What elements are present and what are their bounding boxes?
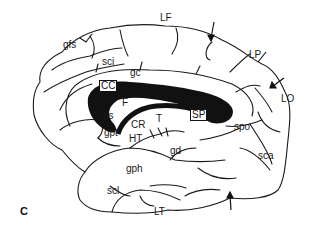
label-fornix: F: [122, 98, 128, 108]
label-scl: scl: [107, 186, 119, 196]
panel-letter: C: [20, 205, 28, 217]
label-gc: gc: [130, 68, 141, 78]
label-ht: HT: [129, 134, 142, 144]
label-gfs: gfs: [63, 40, 76, 50]
label-as: as: [103, 111, 114, 121]
label-gpt: gpt: [104, 128, 118, 138]
label-gph: gph: [126, 164, 143, 174]
label-thalamus: T: [156, 114, 162, 124]
label-lobus-frontalis: LF: [160, 13, 172, 23]
label-splenium: SP: [190, 109, 207, 121]
label-lobus-temporalis: LT: [154, 207, 165, 217]
label-lobus-occipitalis: LO: [281, 94, 294, 104]
label-cr: CR: [131, 120, 145, 130]
label-sci: sci: [102, 57, 114, 67]
label-spo: spo: [234, 122, 250, 132]
label-corpus-callosum: CC: [99, 80, 117, 92]
label-lobus-parietalis: LP: [249, 50, 261, 60]
label-sca: sca: [258, 151, 274, 161]
label-gd: gd: [170, 146, 181, 156]
brain-diagram: LF LP LO LT gfs sci gc CC F SP T as gpt …: [0, 0, 311, 232]
